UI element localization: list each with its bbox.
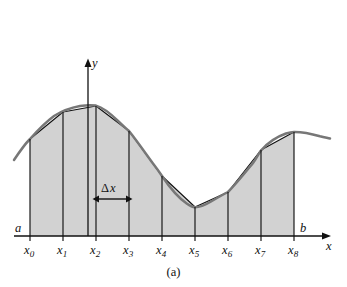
figure-container: y x a b Δx x0 x1 x2 x3 x4 x5 x6 x7 x8 (a… — [0, 0, 347, 287]
node-sub-x6: 6 — [228, 249, 233, 259]
node-sub-x1: 1 — [63, 249, 68, 259]
delta-variable: x — [110, 181, 116, 195]
node-base-x2: x — [90, 243, 96, 257]
figure-caption: (a) — [0, 265, 347, 280]
x-axis-ticks-group — [30, 236, 294, 241]
node-base-x7: x — [255, 243, 261, 257]
upper-bound-label-b: b — [300, 222, 306, 235]
x-axis-label: x — [326, 240, 332, 253]
node-base-x0: x — [24, 243, 30, 257]
node-base-x5: x — [189, 243, 195, 257]
delta-x-label: Δx — [101, 182, 116, 195]
delta-symbol: Δ — [101, 181, 109, 195]
node-base-x6: x — [222, 243, 228, 257]
lower-bound-label-a: a — [15, 222, 21, 235]
node-label-x3: x3 — [123, 244, 133, 259]
node-label-x2: x2 — [90, 244, 100, 259]
node-label-x8: x8 — [288, 244, 298, 259]
node-base-x1: x — [57, 243, 63, 257]
node-label-x1: x1 — [57, 244, 67, 259]
node-label-x7: x7 — [255, 244, 265, 259]
node-label-x6: x6 — [222, 244, 232, 259]
node-sub-x2: 2 — [96, 249, 101, 259]
node-base-x4: x — [156, 243, 162, 257]
node-label-x0: x0 — [24, 244, 34, 259]
node-sub-x8: 8 — [294, 249, 299, 259]
y-axis-arrowhead-icon — [85, 59, 92, 68]
node-sub-x3: 3 — [129, 249, 134, 259]
node-sub-x4: 4 — [162, 249, 167, 259]
node-sub-x5: 5 — [195, 249, 200, 259]
node-base-x3: x — [123, 243, 129, 257]
node-label-x5: x5 — [189, 244, 199, 259]
node-label-x4: x4 — [156, 244, 166, 259]
node-base-x8: x — [288, 243, 294, 257]
node-sub-x7: 7 — [261, 249, 266, 259]
node-sub-x0: 0 — [30, 249, 35, 259]
y-axis-label: y — [92, 57, 98, 70]
